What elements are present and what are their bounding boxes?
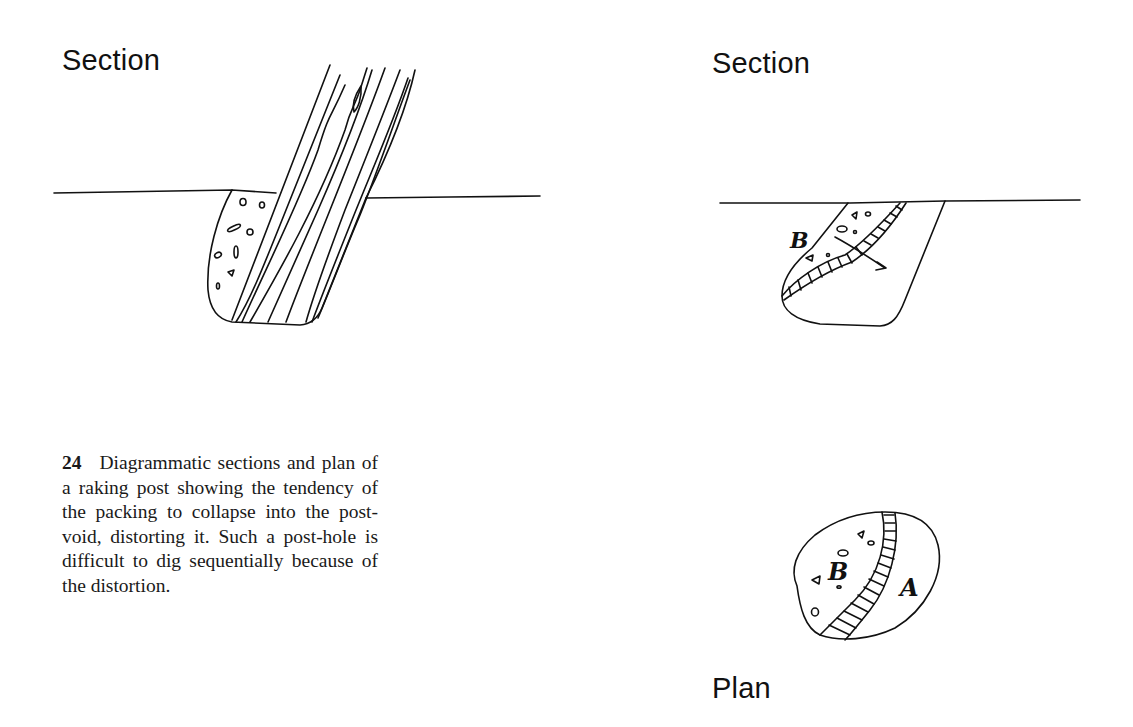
marker-a-plan: A [898,573,919,602]
ground-line-right [366,196,540,198]
marker-b-plan: B [827,557,848,586]
left-section-drawing [54,65,540,325]
plan-drawing: B A [794,512,939,640]
marker-b-section: B [789,227,809,253]
figure-drawings: B B A [0,0,1133,727]
ground-line-left [54,190,276,193]
right-section-drawing: B [720,200,1080,326]
arrow-icon [835,237,885,268]
